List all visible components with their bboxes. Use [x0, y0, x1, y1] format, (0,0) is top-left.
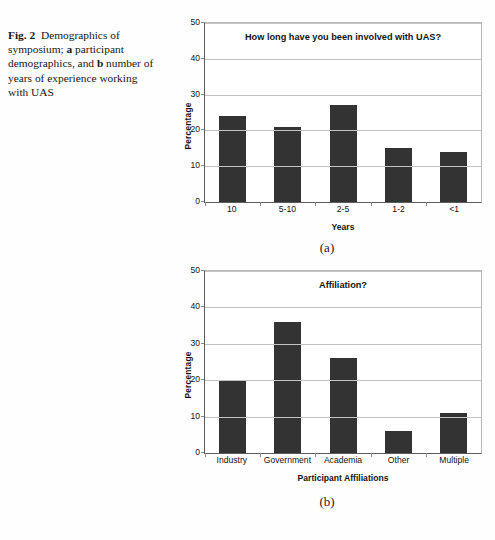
chart-a-y-tick: 20: [190, 124, 200, 134]
chart-b-plot-area: Affiliation?: [204, 270, 482, 454]
chart-b-gridline: [205, 307, 481, 308]
chart-b-box: Percentage 50403020100 Affiliation? Indu…: [166, 266, 488, 484]
subcaption-b: (b): [166, 494, 488, 510]
subcaption-a: (a): [166, 240, 488, 256]
chart-a-bars: [205, 23, 481, 202]
chart-b-gridline: [205, 380, 481, 381]
figure-caption-label: Fig. 2: [8, 29, 35, 41]
chart-a-gridline: [205, 23, 481, 24]
chart-a-plot-area: How long have you been involved with UAS…: [204, 22, 482, 203]
chart-a-x-tick: 10: [204, 204, 260, 217]
bar-slot: [371, 23, 426, 202]
bar-slot: [315, 23, 370, 202]
chart-b-y-tick: 0: [195, 447, 200, 457]
chart-b-y-tick: 30: [190, 338, 200, 348]
chart-a-x-axis-title: Years: [204, 222, 482, 232]
chart-a-y-tick-labels: 50403020100: [178, 18, 202, 233]
figure-caption: Fig. 2 Demographics of symposium; a part…: [8, 28, 160, 99]
chart-a-gridline: [205, 59, 481, 60]
bar-slot: [371, 271, 426, 453]
chart-a-y-tick: 0: [195, 196, 200, 206]
bar: [219, 116, 246, 202]
bar-slot: [260, 271, 315, 453]
chart-a-x-tick: <1: [426, 204, 482, 217]
chart-b-y-tick: 20: [190, 374, 200, 384]
chart-a-x-tick: 5-10: [260, 204, 316, 217]
chart-b-x-tick: Industry: [204, 455, 260, 468]
chart-a-y-tick: 30: [190, 89, 200, 99]
chart-a-gridline: [205, 166, 481, 167]
chart-a-x-tick-labels: 105-102-51-2<1: [204, 204, 482, 217]
chart-b-y-tick: 10: [190, 411, 200, 421]
chart-b-y-tick: 40: [190, 301, 200, 311]
bar-slot: [205, 23, 260, 202]
chart-a: Percentage 50403020100 How long have you…: [166, 18, 488, 266]
chart-b-y-tick-labels: 50403020100: [178, 266, 202, 484]
chart-b-x-tick-labels: IndustryGovernmentAcademiaOtherMultiple: [204, 455, 482, 468]
chart-b: Percentage 50403020100 Affiliation? Indu…: [166, 266, 488, 538]
chart-b-x-tick: Other: [371, 455, 427, 468]
chart-b-x-tick: Government: [260, 455, 316, 468]
bar-slot: [426, 271, 481, 453]
bar: [274, 322, 301, 453]
bar-slot: [426, 23, 481, 202]
chart-a-y-tick: 40: [190, 53, 200, 63]
bar: [385, 148, 412, 202]
bar: [385, 431, 412, 453]
chart-b-x-tick: Academia: [315, 455, 371, 468]
chart-a-gridline: [205, 95, 481, 96]
figure-page: Fig. 2 Demographics of symposium; a part…: [0, 0, 495, 540]
bar: [440, 152, 467, 202]
bar-slot: [260, 23, 315, 202]
chart-a-y-tick: 10: [190, 160, 200, 170]
bar: [330, 105, 357, 202]
chart-b-gridline: [205, 417, 481, 418]
chart-b-x-tick: Multiple: [426, 455, 482, 468]
bar-slot: [315, 271, 370, 453]
chart-b-y-tick: 50: [190, 265, 200, 275]
chart-a-box: Percentage 50403020100 How long have you…: [166, 18, 488, 233]
bar: [330, 358, 357, 453]
chart-a-y-tick: 50: [190, 17, 200, 27]
bar: [274, 127, 301, 202]
chart-b-x-axis-title: Participant Affiliations: [204, 473, 482, 483]
chart-b-gridline: [205, 344, 481, 345]
chart-b-gridline: [205, 271, 481, 272]
chart-b-bars: [205, 271, 481, 453]
chart-a-gridline: [205, 130, 481, 131]
bar: [440, 413, 467, 453]
chart-a-x-tick: 1-2: [371, 204, 427, 217]
bar-slot: [205, 271, 260, 453]
chart-a-x-tick: 2-5: [315, 204, 371, 217]
